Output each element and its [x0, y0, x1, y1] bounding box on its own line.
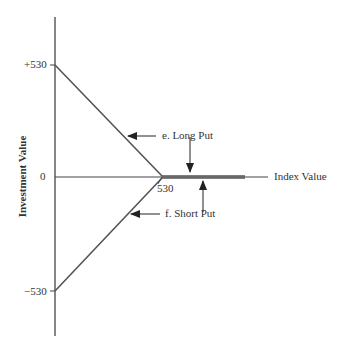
long-put-label: e. Long Put — [162, 130, 213, 141]
x-axis-label: Index Value — [274, 171, 327, 182]
ytick-bottom: −530 — [24, 286, 47, 297]
short-put-line — [55, 178, 245, 291]
y-axis-label: Investment Value — [17, 134, 28, 220]
ytick-top: +530 — [24, 59, 47, 70]
short-put-label: f. Short Put — [165, 208, 215, 219]
long-put-line — [55, 65, 245, 176]
ytick-zero: 0 — [40, 171, 46, 182]
xtick-strike: 530 — [157, 183, 174, 194]
